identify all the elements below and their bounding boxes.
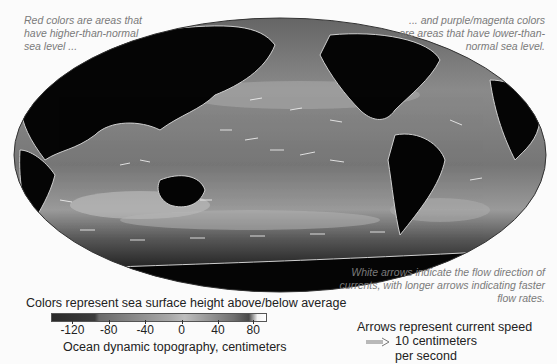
legend-title: Colors represent sea surface height abov… — [26, 296, 346, 310]
annotation-lower-sea-level: ... and purple/magenta colors are areas … — [395, 14, 545, 53]
arrow-scale-icon — [365, 337, 391, 347]
colorbar-tick-label: 40 — [211, 323, 224, 337]
arrow-scale-label-2: per second — [395, 349, 477, 364]
arrow-legend-title: Arrows represent current speed — [357, 320, 532, 334]
colorbar-tick-labels: -120-80-4004080 — [51, 323, 265, 337]
annotation-arrows: White arrows indicate the flow direction… — [335, 266, 545, 305]
colorbar-axis-label: Ocean dynamic topography, centimeters — [63, 340, 287, 354]
colorbar-tick-label: -120 — [60, 323, 84, 337]
colorbar-tick-label: -80 — [100, 323, 117, 337]
colorbar-tick-label: 0 — [178, 323, 185, 337]
annotation-higher-sea-level: Red colors are areas that have higher-th… — [24, 14, 144, 53]
colorbar-tick-label: 80 — [247, 323, 260, 337]
arrow-scale-label-1: 10 centimeters — [395, 334, 477, 349]
colorbar-tick-label: -40 — [136, 323, 153, 337]
